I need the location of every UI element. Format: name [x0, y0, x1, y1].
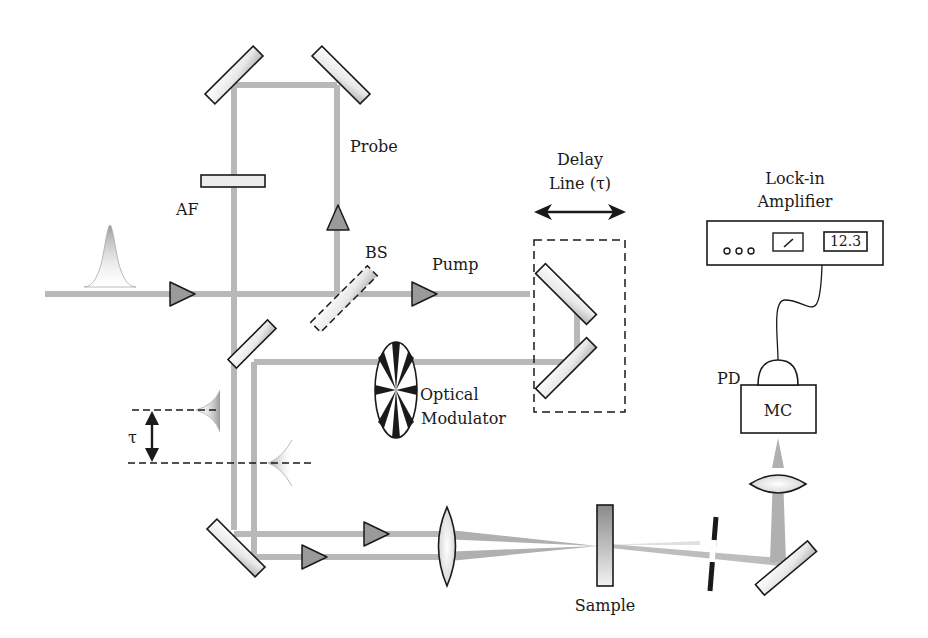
- beam-paths: [45, 85, 577, 557]
- label-tau: τ: [128, 428, 137, 447]
- beam-splitter: [311, 266, 377, 332]
- mirror-top-right: [312, 46, 370, 104]
- label-delay-line-1: Delay: [557, 150, 603, 169]
- label-bs: BS: [365, 243, 388, 262]
- lock-in-amplifier: 12.3: [707, 221, 883, 265]
- label-probe: Probe: [350, 137, 398, 156]
- delay-mirror-lower: [536, 338, 597, 399]
- label-delay-line-2: Line (τ): [549, 174, 611, 193]
- knob-icon: [748, 248, 754, 254]
- tau-double-arrow-icon: [145, 411, 159, 462]
- delay-line-double-arrow-icon: [534, 204, 626, 220]
- mirror-bottom-right: [755, 541, 816, 595]
- attenuation-filter: [201, 175, 265, 187]
- knob-icon: [724, 248, 730, 254]
- arrow-probe-icon: [327, 205, 349, 230]
- label-lockin-1: Lock-in: [765, 169, 824, 188]
- lockin-display-value: 12.3: [830, 233, 861, 249]
- label-af: AF: [175, 200, 199, 219]
- label-pump: Pump: [432, 255, 478, 274]
- mirrors: [205, 46, 817, 595]
- sample: [597, 505, 613, 586]
- input-pulse-icon: [84, 225, 136, 287]
- knob-icon: [736, 248, 742, 254]
- label-lockin-2: Amplifier: [757, 192, 833, 211]
- label-sample: Sample: [575, 596, 636, 615]
- collecting-lens: [750, 475, 806, 493]
- arrow-pump-lower-icon: [302, 545, 327, 569]
- signal-cable: [777, 265, 822, 360]
- arrow-probe-lower-icon: [364, 522, 389, 546]
- photodiode-icon: [758, 360, 798, 385]
- label-optical-modulator-1: Optical: [420, 385, 479, 404]
- arrow-pump-icon: [412, 282, 437, 306]
- focusing-lens: [439, 507, 456, 586]
- label-mc: MC: [764, 401, 793, 420]
- probe-pulse-icon: [196, 390, 220, 432]
- label-optical-modulator-2: Modulator: [421, 409, 506, 428]
- pump-probe-diagram: 12.3 Probe AF BS Pump Delay Line (τ) Loc…: [0, 0, 928, 638]
- arrow-input-icon: [170, 282, 195, 306]
- optical-modulator-chopper-icon: [375, 342, 417, 438]
- label-pd: PD: [717, 369, 741, 388]
- delay-mirror-upper: [536, 264, 597, 325]
- analog-meter-icon: [773, 233, 803, 251]
